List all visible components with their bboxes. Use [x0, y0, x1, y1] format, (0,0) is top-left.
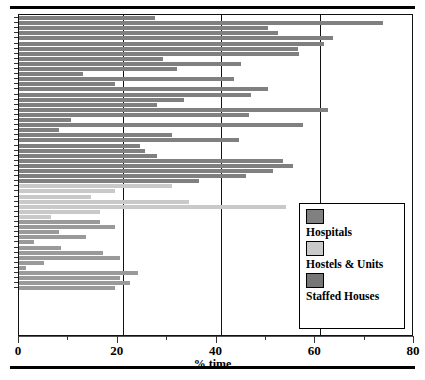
legend-entry-hospitals: Hospitals	[306, 209, 398, 239]
y-tick	[14, 139, 18, 140]
bar	[19, 225, 115, 229]
bar	[19, 149, 145, 153]
bar	[19, 16, 155, 20]
y-tick	[14, 88, 18, 89]
y-tick	[14, 114, 18, 115]
bar	[19, 113, 249, 117]
x-tick-minor	[166, 336, 167, 340]
y-tick	[14, 155, 18, 156]
x-tick-major	[216, 336, 217, 343]
x-tick-major	[18, 336, 19, 343]
y-tick	[14, 226, 18, 227]
bar	[19, 256, 120, 260]
y-tick	[14, 267, 18, 268]
y-tick	[14, 119, 18, 120]
bar	[19, 210, 100, 214]
bar	[19, 57, 163, 61]
y-tick	[14, 58, 18, 59]
legend: Hospitals Hostels & Units Staffed Houses	[299, 203, 405, 329]
chart-figure: 020406080 % time Hospitals Hostels & Uni…	[0, 0, 425, 380]
bar	[19, 251, 103, 255]
bar	[19, 200, 189, 204]
y-tick	[14, 165, 18, 166]
y-tick	[14, 63, 18, 64]
y-tick	[14, 17, 18, 18]
bar	[19, 21, 383, 25]
y-tick	[14, 231, 18, 232]
legend-label-staffed-houses: Staffed Houses	[306, 289, 398, 303]
bar	[19, 276, 120, 280]
y-tick	[14, 104, 18, 105]
bar	[19, 98, 184, 102]
x-axis-label: % time	[0, 357, 425, 372]
bar	[19, 174, 246, 178]
bar	[19, 164, 293, 168]
y-tick	[14, 145, 18, 146]
bar	[19, 159, 283, 163]
y-tick	[14, 109, 18, 110]
bar	[19, 215, 51, 219]
y-tick	[14, 150, 18, 151]
y-tick	[14, 221, 18, 222]
y-tick	[14, 175, 18, 176]
y-tick	[14, 247, 18, 248]
bar	[19, 271, 138, 275]
bar	[19, 82, 115, 86]
y-tick	[14, 68, 18, 69]
y-tick	[14, 94, 18, 95]
y-tick	[14, 43, 18, 44]
y-tick	[14, 287, 18, 288]
y-tick	[14, 180, 18, 181]
y-tick	[14, 201, 18, 202]
bar	[19, 26, 268, 30]
bar	[19, 36, 333, 40]
y-tick	[14, 83, 18, 84]
y-tick	[14, 48, 18, 49]
legend-entry-hostels-units: Hostels & Units	[306, 241, 398, 271]
bar	[19, 144, 140, 148]
bar	[19, 42, 324, 46]
bar	[19, 87, 268, 91]
legend-swatch-staffed-houses	[306, 273, 324, 288]
y-tick	[14, 170, 18, 171]
bar	[19, 62, 241, 66]
y-tick	[14, 206, 18, 207]
bar	[19, 133, 172, 137]
y-tick	[14, 53, 18, 54]
x-tick-major	[117, 336, 118, 343]
y-tick	[14, 73, 18, 74]
bar	[19, 235, 86, 239]
bar	[19, 230, 59, 234]
y-tick	[14, 262, 18, 263]
legend-entry-staffed-houses: Staffed Houses	[306, 273, 398, 303]
y-tick	[14, 282, 18, 283]
bar	[19, 184, 172, 188]
y-tick	[14, 32, 18, 33]
bar	[19, 220, 100, 224]
y-tick	[14, 134, 18, 135]
bar	[19, 179, 199, 183]
y-tick	[14, 216, 18, 217]
bar	[19, 67, 177, 71]
top-rule	[10, 6, 415, 9]
y-tick	[14, 124, 18, 125]
legend-label-hostels-units: Hostels & Units	[306, 257, 398, 271]
bar	[19, 31, 278, 35]
y-tick	[14, 272, 18, 273]
bar	[19, 93, 251, 97]
x-tick-minor	[364, 336, 365, 340]
x-tick-minor	[67, 336, 68, 340]
y-tick	[14, 78, 18, 79]
y-tick	[14, 196, 18, 197]
bar	[19, 281, 130, 285]
legend-label-hospitals: Hospitals	[306, 225, 398, 239]
legend-swatch-hostels-units	[306, 241, 324, 256]
bar	[19, 128, 59, 132]
bar	[19, 123, 303, 127]
bar	[19, 77, 234, 81]
bar	[19, 52, 299, 56]
x-tick-major	[413, 336, 414, 343]
y-tick	[14, 22, 18, 23]
y-tick	[14, 37, 18, 38]
y-tick	[14, 99, 18, 100]
